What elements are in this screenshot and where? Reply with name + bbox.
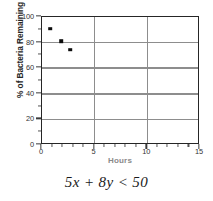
gridline-horizontal bbox=[42, 119, 198, 121]
gridline-horizontal bbox=[42, 67, 198, 69]
x-axis-title: Hours bbox=[41, 156, 199, 165]
x-tick-minor bbox=[167, 144, 168, 147]
gridline-horizontal bbox=[42, 93, 198, 95]
y-tick-label: 100 bbox=[22, 12, 34, 21]
data-point bbox=[69, 48, 73, 52]
y-tick-label: 40 bbox=[26, 88, 34, 97]
x-tick-minor bbox=[62, 144, 63, 147]
x-tick-minor bbox=[135, 144, 136, 147]
x-tick-minor bbox=[104, 144, 105, 147]
x-tick-minor bbox=[177, 144, 178, 147]
y-tick-label: 60 bbox=[26, 63, 34, 72]
gridline-vertical bbox=[94, 17, 95, 143]
y-tick-label: 0 bbox=[30, 140, 34, 149]
data-point bbox=[59, 40, 63, 44]
x-tick-mark bbox=[198, 144, 199, 149]
x-tick-mark bbox=[93, 144, 94, 149]
x-tick-minor bbox=[156, 144, 157, 147]
x-tick-mark bbox=[146, 144, 147, 149]
gridline-horizontal bbox=[42, 42, 198, 44]
x-tick-minor bbox=[83, 144, 84, 147]
figure: % of Bacteria Remaining 020406080100 051… bbox=[0, 0, 213, 201]
x-tick-minor bbox=[125, 144, 126, 147]
x-tick-minor bbox=[188, 144, 189, 147]
x-tick-mark bbox=[40, 144, 41, 149]
caption-equation: 5x + 8y < 50 bbox=[0, 174, 213, 191]
y-axis: 020406080100 bbox=[0, 0, 41, 161]
data-point bbox=[49, 27, 53, 31]
x-tick-minor bbox=[72, 144, 73, 147]
plot-area bbox=[41, 16, 199, 144]
x-tick-minor bbox=[114, 144, 115, 147]
y-tick-label: 80 bbox=[26, 37, 34, 46]
gridline-vertical bbox=[147, 17, 148, 143]
y-tick-label: 20 bbox=[26, 114, 34, 123]
x-tick-minor bbox=[51, 144, 52, 147]
